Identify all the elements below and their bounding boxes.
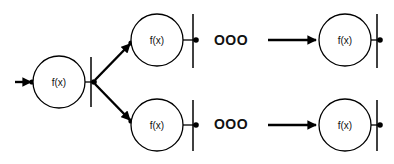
edge-n1-n2 [95, 44, 130, 80]
node-4: f(x) [128, 99, 198, 151]
node-5-label: f(x) [338, 120, 352, 131]
function-chain-diagram: f(x) f(x) OOO f(x) f(x) OOO [0, 0, 394, 164]
node-3-label: f(x) [338, 35, 352, 46]
node-2: f(x) [128, 14, 198, 68]
node-1-label: f(x) [52, 77, 66, 88]
node-3-output-dot [377, 37, 383, 43]
edge-n1-n4 [95, 84, 130, 120]
ellipsis-top: OOO [214, 32, 248, 48]
node-3: f(x) [319, 14, 383, 68]
node-5: f(x) [319, 99, 383, 151]
node-1: f(x) [33, 56, 97, 108]
input-arrow [15, 79, 35, 84]
node-4-output-dot [193, 122, 199, 128]
node-5-output-dot [377, 122, 383, 128]
node-2-label: f(x) [150, 35, 164, 46]
node-4-label: f(x) [150, 120, 164, 131]
ellipsis-bottom: OOO [214, 116, 248, 132]
node-2-output-dot [193, 37, 199, 43]
